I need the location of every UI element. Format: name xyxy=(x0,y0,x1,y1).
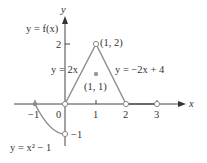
point-open-3-0 xyxy=(154,101,159,106)
y-axis-arrow-icon xyxy=(62,16,68,24)
tick-label-x-3: 3 xyxy=(154,109,159,120)
point-open-2-0 xyxy=(123,101,128,106)
x-axis-arrow-icon xyxy=(178,101,186,107)
tick-label-x-0: 0 xyxy=(56,109,61,120)
tick-label-x-2: 2 xyxy=(123,109,128,120)
x-axis-label: x xyxy=(188,98,194,109)
point-open-1-2 xyxy=(93,41,98,46)
right-line-label: y = −2x + 4 xyxy=(115,64,165,75)
point-open-0-0 xyxy=(62,101,67,106)
piecewise-function-diagram: y x y = f(x) 2 (1, 2) y = 2x y = −2x + 4… xyxy=(0,0,207,163)
function-label: y = f(x) xyxy=(26,23,59,35)
parabola-label: y = x² − 1 xyxy=(10,142,51,153)
point-label-1-1: (1, 1) xyxy=(84,81,107,93)
point-filled-1-1 xyxy=(94,72,98,76)
point-label-1-2: (1, 2) xyxy=(100,37,123,49)
point-open-0-neg1 xyxy=(62,131,67,136)
point-filled-neg1-0 xyxy=(33,102,37,106)
tick-label-x-1: 1 xyxy=(93,109,98,120)
y-axis-label: y xyxy=(60,4,66,15)
tick-label-y-2: 2 xyxy=(56,39,61,50)
tick-label-y-neg1: −1 xyxy=(71,129,82,140)
left-line-label: y = 2x xyxy=(51,64,79,75)
tick-label-x-neg1: −1 xyxy=(28,109,39,120)
